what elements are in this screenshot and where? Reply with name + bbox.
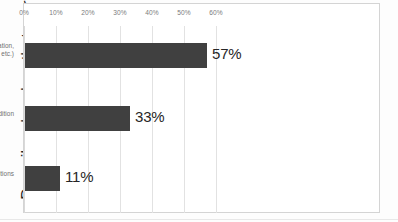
bar-chart: Describe churches that merged? 0% 10% 20… (0, 0, 398, 222)
category-label-same-church-tradition: Same church tradition (denomination, ass… (0, 42, 14, 59)
bar-value-same-church-tradition: 57% (212, 45, 241, 62)
bar-value-different-church-traditions: 11% (65, 168, 93, 185)
plot-area: 0% 10% 20% 30% 40% 50% 60% 57% 33% 11% (23, 3, 380, 213)
bar-value-similar-church-tradition: 33% (135, 108, 164, 125)
category-label-different-church-traditions: Different church traditions (0, 170, 14, 178)
bar-different-church-traditions (25, 166, 60, 191)
bar-similar-church-tradition (25, 106, 130, 131)
x-tick-label-2: 20% (81, 9, 95, 16)
category-label-similar-church-tradition: Similar church tradition (0, 110, 14, 118)
x-tick-label-4: 40% (145, 9, 159, 16)
category-label-line: association, network, tribe, etc.) (0, 50, 14, 58)
page-rule (0, 219, 398, 220)
category-label-line: Similar church tradition (0, 110, 14, 118)
x-tick-label-0: 0% (19, 9, 29, 16)
category-label-line: Different church traditions (0, 170, 14, 178)
x-tick-label-3: 30% (113, 9, 127, 16)
bar-same-church-tradition (25, 43, 207, 68)
category-label-line: Same church tradition (denomination, (0, 42, 14, 50)
x-tick-label-1: 10% (49, 9, 63, 16)
x-tick-label-5: 50% (177, 9, 191, 16)
x-tick-label-6: 60% (209, 9, 223, 16)
